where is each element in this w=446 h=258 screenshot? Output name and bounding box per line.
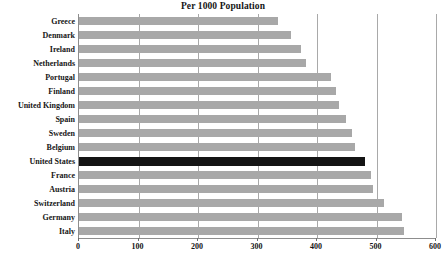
bar-row bbox=[79, 84, 436, 98]
category-label-france: France bbox=[0, 171, 75, 180]
bar-chart: Per 1000 Population GreeceDenmarkIreland… bbox=[0, 0, 446, 258]
x-tick-mark-300 bbox=[257, 238, 258, 241]
category-label-united-states: United States bbox=[0, 157, 75, 166]
category-axis-labels: GreeceDenmarkIrelandNetherlandsPortugalF… bbox=[0, 14, 75, 238]
bar-row bbox=[79, 28, 436, 42]
bar-denmark bbox=[79, 31, 291, 39]
x-tick-mark-0 bbox=[78, 238, 79, 241]
bar-row bbox=[79, 112, 436, 126]
category-label-portugal: Portugal bbox=[0, 73, 75, 82]
bar-row bbox=[79, 42, 436, 56]
bar-ireland bbox=[79, 45, 301, 53]
bar-italy bbox=[79, 227, 404, 235]
bar-greece bbox=[79, 17, 278, 25]
bar-row bbox=[79, 182, 436, 196]
category-label-italy: Italy bbox=[0, 227, 75, 236]
bar-row bbox=[79, 98, 436, 112]
bar-row bbox=[79, 70, 436, 84]
x-tick-mark-600 bbox=[435, 238, 436, 241]
category-label-austria: Austria bbox=[0, 185, 75, 194]
category-label-finland: Finland bbox=[0, 87, 75, 96]
category-label-ireland: Ireland bbox=[0, 45, 75, 54]
bar-france bbox=[79, 171, 371, 179]
bar-united-kingdom bbox=[79, 101, 339, 109]
category-label-greece: Greece bbox=[0, 17, 75, 26]
x-axis: 0100200300400500600 bbox=[78, 238, 436, 258]
category-label-sweden: Sweden bbox=[0, 129, 75, 138]
x-tick-label-600: 600 bbox=[429, 242, 441, 251]
bar-germany bbox=[79, 213, 402, 221]
bar-sweden bbox=[79, 129, 352, 137]
bar-row bbox=[79, 126, 436, 140]
bar-finland bbox=[79, 87, 336, 95]
category-label-netherlands: Netherlands bbox=[0, 59, 75, 68]
bar-united-states bbox=[79, 157, 365, 166]
bar-switzerland bbox=[79, 199, 384, 207]
plot-area bbox=[78, 14, 436, 239]
bar-row bbox=[79, 154, 436, 168]
x-tick-label-400: 400 bbox=[310, 242, 322, 251]
bar-spain bbox=[79, 115, 346, 123]
bar-row bbox=[79, 210, 436, 224]
category-label-united-kingdom: United Kingdom bbox=[0, 101, 75, 110]
bar-belgium bbox=[79, 143, 355, 151]
bar-row bbox=[79, 140, 436, 154]
bar-austria bbox=[79, 185, 373, 193]
bar-row bbox=[79, 196, 436, 210]
x-tick-mark-500 bbox=[376, 238, 377, 241]
bar-row bbox=[79, 168, 436, 182]
x-tick-mark-200 bbox=[197, 238, 198, 241]
bar-portugal bbox=[79, 73, 331, 81]
category-label-belgium: Belgium bbox=[0, 143, 75, 152]
x-tick-mark-100 bbox=[138, 238, 139, 241]
gridline-600 bbox=[436, 14, 437, 238]
category-label-germany: Germany bbox=[0, 213, 75, 222]
bar-row bbox=[79, 56, 436, 70]
category-label-spain: Spain bbox=[0, 115, 75, 124]
x-tick-label-0: 0 bbox=[76, 242, 80, 251]
category-label-switzerland: Switzerland bbox=[0, 199, 75, 208]
chart-title: Per 1000 Population bbox=[0, 1, 446, 11]
category-label-denmark: Denmark bbox=[0, 31, 75, 40]
x-tick-label-100: 100 bbox=[132, 242, 144, 251]
x-tick-label-200: 200 bbox=[191, 242, 203, 251]
bar-row bbox=[79, 14, 436, 28]
bar-netherlands bbox=[79, 59, 306, 67]
x-tick-mark-400 bbox=[316, 238, 317, 241]
bar-rows bbox=[79, 14, 436, 238]
x-tick-label-300: 300 bbox=[251, 242, 263, 251]
bar-row bbox=[79, 224, 436, 238]
x-tick-label-500: 500 bbox=[370, 242, 382, 251]
